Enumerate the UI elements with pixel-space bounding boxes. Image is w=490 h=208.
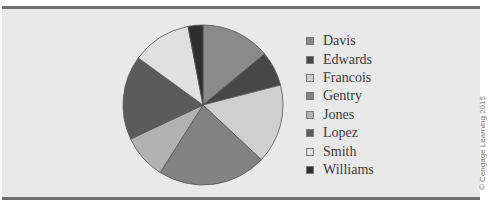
legend-label: Gentry	[323, 89, 362, 103]
legend-item-francois: Francois	[306, 69, 374, 87]
legend-swatch	[306, 129, 314, 137]
legend-label: Williams	[323, 163, 374, 177]
legend-item-smith: Smith	[306, 142, 374, 160]
legend-item-davis: Davis	[306, 32, 374, 50]
legend-label: Francois	[323, 71, 371, 85]
legend-label: Jones	[323, 108, 354, 122]
legend-label: Edwards	[323, 53, 372, 67]
legend-swatch	[306, 148, 314, 156]
pie-chart	[0, 0, 490, 208]
legend: Davis Edwards Francois Gentry Jones Lope…	[306, 32, 374, 179]
legend-swatch	[306, 166, 314, 174]
legend-swatch	[306, 37, 314, 45]
legend-label: Smith	[323, 145, 356, 159]
legend-item-jones: Jones	[306, 106, 374, 124]
legend-item-edwards: Edwards	[306, 50, 374, 68]
legend-swatch	[306, 92, 314, 100]
legend-swatch	[306, 111, 314, 119]
legend-item-williams: Williams	[306, 161, 374, 179]
legend-label: Davis	[323, 34, 356, 48]
legend-item-lopez: Lopez	[306, 124, 374, 142]
legend-label: Lopez	[323, 126, 358, 140]
copyright-credit: © Cengage Learning 2015	[478, 96, 487, 190]
legend-swatch	[306, 74, 314, 82]
legend-item-gentry: Gentry	[306, 87, 374, 105]
legend-swatch	[306, 56, 314, 64]
